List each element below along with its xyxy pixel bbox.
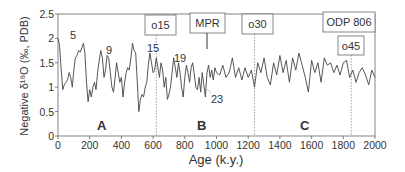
plot-svg: 0200400600800100012001400160018002000 00…: [0, 0, 405, 172]
box-odp806-label: ODP 806: [326, 16, 371, 28]
y-tick-label: 1: [48, 81, 54, 93]
stage-label-5: 5: [70, 29, 76, 41]
x-tick-label: 2000: [363, 139, 387, 151]
x-tick-label: 1400: [268, 139, 292, 151]
stage-label-9: 9: [106, 44, 112, 56]
x-axis-title: Age (k.y.): [189, 152, 244, 167]
stage-label-23: 23: [211, 93, 223, 105]
y-axis-ticks: 00.511.522.5: [39, 8, 58, 142]
box-o45-label: o45: [342, 40, 360, 52]
y-tick-label: 2.5: [39, 8, 54, 20]
box-o30-label: o30: [248, 18, 266, 30]
x-tick-label: 1800: [332, 139, 356, 151]
x-tick-label: 1000: [205, 139, 229, 151]
region-label-b: B: [197, 118, 206, 133]
box-o15-label: o15: [151, 19, 169, 31]
x-tick-label: 1200: [237, 139, 261, 151]
x-tick-label: 400: [113, 139, 131, 151]
stage-label-15: 15: [147, 42, 159, 54]
stage-label-19: 19: [174, 52, 186, 64]
x-axis-ticks: 0200400600800100012001400160018002000: [55, 136, 387, 151]
y-tick-label: 2: [48, 32, 54, 44]
x-tick-label: 1600: [300, 139, 324, 151]
y-axis-title: Negative δ¹⁸O (‰, PDB): [18, 16, 30, 136]
y-tick-label: 0: [48, 130, 54, 142]
box-mpr-label: MPR: [195, 17, 220, 29]
region-label-a: A: [97, 118, 107, 133]
x-tick-label: 800: [176, 139, 194, 151]
chart: 0200400600800100012001400160018002000 00…: [0, 0, 405, 172]
y-tick-label: 0.5: [39, 106, 54, 118]
y-tick-label: 1.5: [39, 57, 54, 69]
x-tick-label: 200: [81, 139, 99, 151]
x-tick-label: 0: [55, 139, 61, 151]
x-tick-label: 600: [144, 139, 162, 151]
region-label-c: C: [300, 118, 310, 133]
